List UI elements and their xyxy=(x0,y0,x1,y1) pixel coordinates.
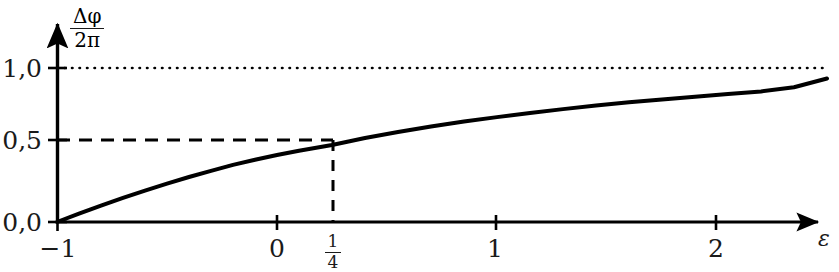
quarter-numerator: 1 xyxy=(325,233,342,253)
y-axis-label-numerator: Δφ xyxy=(70,6,104,29)
y-axis-label-denominator: 2π xyxy=(70,29,104,51)
x-tick-label-1: 1 xyxy=(472,236,518,261)
y-tick-label-1: 1,0 xyxy=(0,56,42,81)
y-tick-label-0: 0,0 xyxy=(0,210,42,235)
quarter-fraction: 1 4 xyxy=(325,233,342,272)
x-tick-label-quarter: 1 4 xyxy=(313,233,353,272)
data-curve xyxy=(57,78,827,222)
y-axis-label-fraction: Δφ 2π xyxy=(70,6,104,51)
y-tick-label-0-5: 0,5 xyxy=(0,128,42,153)
x-tick-label-0: 0 xyxy=(254,236,300,261)
quarter-denominator: 4 xyxy=(325,253,342,272)
x-tick-label-2: 2 xyxy=(693,236,739,261)
x-axis-label: ε xyxy=(818,228,830,250)
x-tick-label-minus1: −1 xyxy=(33,236,83,261)
y-axis-label: Δφ 2π xyxy=(70,6,104,51)
